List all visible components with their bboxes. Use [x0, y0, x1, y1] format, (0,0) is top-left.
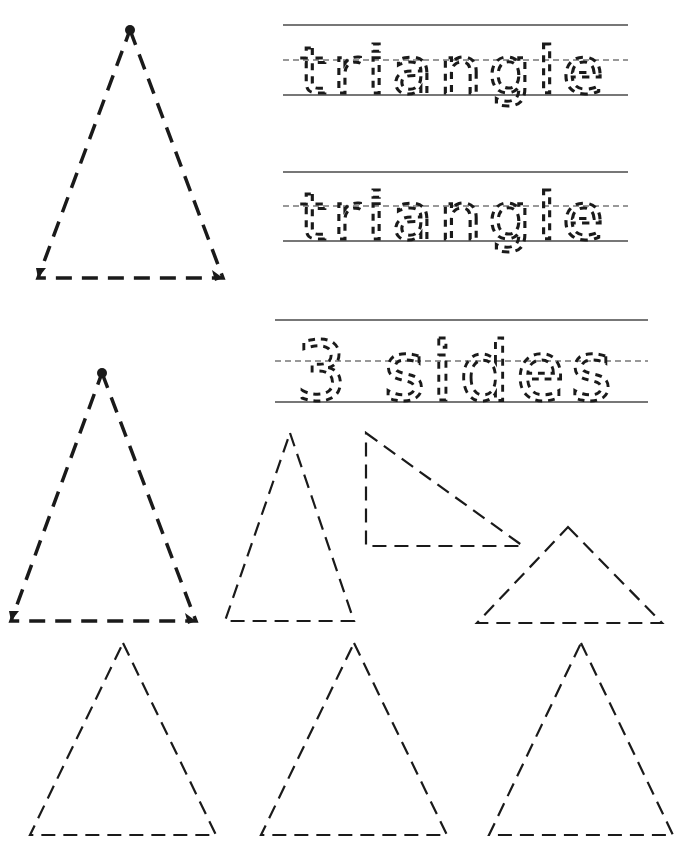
- trace-word: triangle: [300, 180, 610, 254]
- trace-row-2: triangle: [283, 172, 628, 254]
- start-dot-icon: [97, 368, 107, 378]
- worksheet-canvas: triangle triangle 3 sides: [0, 0, 696, 858]
- trace-row-1: triangle: [283, 25, 628, 108]
- bottom-triangle-3: [489, 643, 673, 835]
- start-dot-icon: [125, 25, 135, 35]
- example-triangle-1: [36, 25, 223, 281]
- example-triangle-2: [9, 368, 196, 624]
- tall-triangle: [225, 433, 354, 621]
- right-triangle: [366, 433, 523, 546]
- wide-triangle: [477, 527, 662, 623]
- trace-word: triangle: [300, 34, 610, 108]
- bottom-triangle-1: [30, 643, 216, 835]
- trace-row-3: 3 sides: [275, 320, 648, 419]
- bottom-triangle-2: [261, 643, 447, 835]
- trace-phrase: 3 sides: [296, 324, 618, 419]
